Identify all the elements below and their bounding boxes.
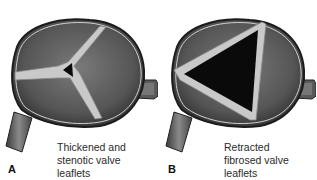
caption-a-line-1: Thickened and: [57, 141, 167, 154]
caption-b: Retracted fibrosed valve leaflets: [224, 141, 317, 180]
caption-a: Thickened and stenotic valve leaflets: [57, 141, 167, 180]
caption-b-line-1: Retracted: [224, 141, 317, 154]
caption-b-line-3: leaflets: [224, 167, 317, 180]
panel-b: B Retracted fibrosed valve leaflets: [158, 0, 316, 180]
panel-label-a: A: [8, 163, 16, 175]
caption-b-line-2: fibrosed valve: [224, 154, 317, 167]
vessel-left-a: [6, 112, 32, 152]
vessel-left-b: [166, 112, 192, 152]
caption-a-line-2: stenotic valve: [57, 154, 167, 167]
panel-a: A Thickened and stenotic valve leaflets: [0, 0, 158, 180]
panel-label-b: B: [168, 163, 176, 175]
caption-a-line-3: leaflets: [57, 167, 167, 180]
